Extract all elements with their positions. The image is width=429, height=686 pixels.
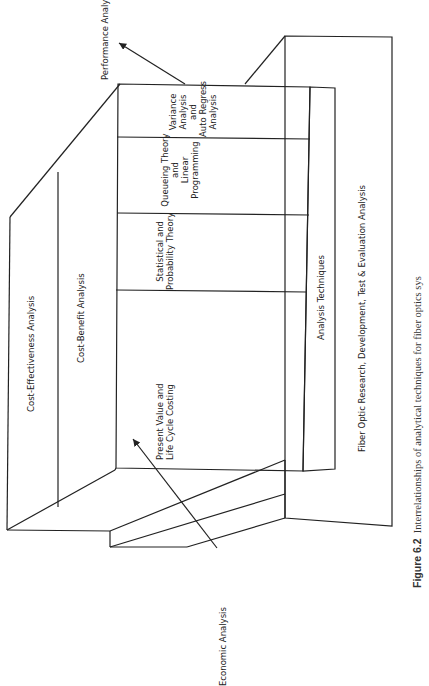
figure-number: Figure 6.2 (411, 538, 423, 588)
technique-line: Auto Regress (198, 87, 208, 137)
economic-analysis-label: Economic Analysis (218, 607, 228, 686)
technique-statistical: Statistical and Probability Theory (155, 213, 175, 290)
technique-line: Programming (190, 130, 200, 210)
technique-line: Queueing Theory (160, 130, 170, 210)
fiber-optic-box (285, 36, 392, 526)
technique-line: Variance (168, 87, 178, 137)
technique-line: Analysis (208, 87, 218, 137)
caption-text: Interrelationships of analytical techniq… (412, 276, 423, 533)
technique-variance: Variance Analysis and Auto Regress Analy… (168, 87, 218, 137)
technique-line: Statistical and (155, 213, 165, 290)
cost-effectiveness-label: Cost-Effectiveness Analysis (26, 296, 36, 412)
figure-caption: Figure 6.2 Interrelationships of analyti… (411, 276, 423, 588)
technique-line: Analysis (178, 87, 188, 137)
techniques-panel (116, 84, 310, 471)
technique-line: and (170, 130, 180, 210)
analysis-techniques-label: Analysis Techniques (316, 255, 326, 340)
technique-line: Probability Theory (165, 213, 175, 290)
technique-queueing: Queueing Theory and Linear Programming (160, 130, 200, 210)
cost-benefit-label: Cost-Benefit Analysis (76, 273, 86, 363)
fiber-optic-label: Fiber Optic Research, Development, Test … (357, 185, 367, 452)
technique-line: Linear (180, 130, 190, 210)
performance-analysis-label: Performance Analysis (100, 0, 110, 80)
technique-line: and (188, 87, 198, 137)
